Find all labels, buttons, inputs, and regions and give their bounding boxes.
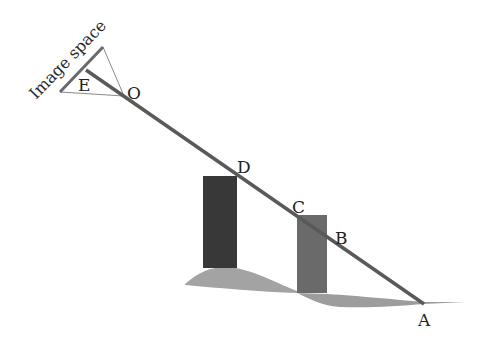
terrain-hump [185,267,297,293]
view-ray [86,70,424,304]
perspective-diagram: Image space E O D C B A [0,0,492,342]
point-label-b: B [335,228,348,248]
point-label-c: C [292,197,305,217]
point-label-d: D [237,157,251,177]
image-space-label: Image space [25,16,110,103]
frustum-edge-bottom [60,92,124,96]
point-label-a: A [417,310,431,330]
point-label-o: O [127,83,141,103]
point-label-e: E [78,75,90,95]
tall-object-bar [203,176,237,268]
